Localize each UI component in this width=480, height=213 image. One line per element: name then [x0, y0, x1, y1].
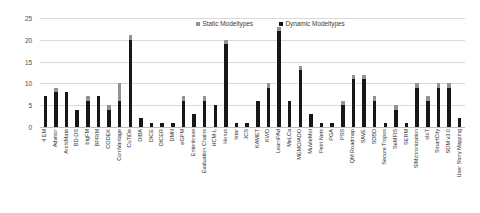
bar-segment-dynamic [107, 110, 111, 127]
x-axis-label-slot: SDBD [369, 129, 380, 211]
bar-stack [352, 75, 356, 127]
x-axis-label-slot: sIoT [423, 129, 434, 211]
x-axis-label-slot: Evaluation Chains [199, 129, 210, 211]
bar-slot [157, 18, 168, 127]
bar-segment-dynamic [139, 118, 143, 127]
bar-stack [288, 101, 292, 127]
x-axis-label: Evaluation Chains [202, 129, 208, 173]
x-axis-label-slot: DICER [157, 129, 168, 211]
x-axis-label-slot: CODEK [104, 129, 115, 211]
bar-stack [203, 96, 207, 127]
bar-segment-dynamic [75, 110, 79, 127]
bar-stack [182, 96, 186, 127]
bar-segment-dynamic [182, 101, 186, 127]
bar-segment-dynamic [288, 101, 292, 127]
bar-segment-dynamic [97, 96, 101, 127]
x-axis-label-slot: ComVantage [114, 129, 125, 211]
x-axis-label: SmartCity [436, 129, 442, 153]
bar-slot [369, 18, 380, 127]
x-axis-label: Entenknow [191, 129, 197, 156]
bar-stack [437, 83, 441, 127]
bar-slot [189, 18, 200, 127]
bar-segment-dynamic [352, 79, 356, 127]
bar-slot [359, 18, 370, 127]
x-axis-label-slot: Entenknow [189, 129, 200, 211]
bar-segment-dynamic [160, 123, 164, 127]
x-axis-label: SAVE [361, 129, 367, 143]
x-axis-label: BPRIM [96, 129, 102, 146]
bar-slot [199, 18, 210, 127]
bar-stack [245, 123, 249, 127]
x-axis-label: MuVieMot [308, 129, 314, 154]
y-axis-tick: 20 [25, 36, 32, 43]
y-axis: 0510152025 [0, 18, 36, 127]
x-axis-label: CuTiDe [128, 129, 134, 147]
x-axis-label: JCS [244, 129, 250, 139]
bar-stack [129, 35, 133, 127]
bar-slot [316, 18, 327, 127]
bar-slot [83, 18, 94, 127]
bar-slot [114, 18, 125, 127]
x-axis-label-slot: Advisor [51, 129, 62, 211]
bar-slot [242, 18, 253, 127]
x-axis-label-slot: LearnPAd [274, 129, 285, 211]
bar-slot [433, 18, 444, 127]
x-axis-label-slot: SeMFIS [391, 129, 402, 211]
x-axis-label-slot: BPRIM [93, 129, 104, 211]
bar-slot [454, 18, 465, 127]
x-axis-label: Horus [223, 129, 229, 144]
bar-slot [327, 18, 338, 127]
bar-slot [401, 18, 412, 127]
bar-segment-dynamic [235, 123, 239, 127]
x-axis-label-slot: SERM [401, 129, 412, 211]
bar-segment-dynamic [65, 92, 69, 127]
bar-segment-static [118, 83, 122, 100]
x-axis-label: Advisor [53, 129, 59, 147]
x-axis-label: ArchiMate [64, 129, 70, 154]
bar-slot [306, 18, 317, 127]
x-axis-label-slot: MEMO/ADO [295, 129, 306, 211]
bar-slot [263, 18, 274, 127]
bar-segment-dynamic [415, 88, 419, 127]
x-axis-label: PSS [340, 129, 346, 140]
bar-stack [267, 83, 271, 127]
x-axis-label: DICER [159, 129, 165, 146]
bar-stack [150, 123, 154, 127]
x-axis-label-slot: DIBA [136, 129, 147, 211]
x-axis-label: 4 EM [43, 129, 49, 142]
bar-slot [104, 18, 115, 127]
x-axis-label: sIoT [425, 129, 431, 140]
bar-segment-dynamic [394, 110, 398, 127]
bar-segment-dynamic [224, 44, 228, 127]
x-axis-label: QM Roadmap [351, 129, 357, 163]
x-axis-label-slot: Secure Tropos [380, 129, 391, 211]
x-axis-label-slot: User Story Mapping [454, 129, 465, 211]
bar-slot [72, 18, 83, 127]
bar-slot [231, 18, 242, 127]
bar-stack [309, 114, 313, 127]
x-axis-label: Secure Tropos [383, 129, 389, 165]
bar-segment-dynamic [192, 114, 196, 127]
bar-slot [284, 18, 295, 127]
x-axis-label: PGA [329, 129, 335, 141]
legend-item[interactable]: Dynamic Modeltypes [279, 20, 345, 27]
bar-segment-dynamic [309, 114, 313, 127]
bar-segment-dynamic [277, 31, 281, 127]
x-axis-label-slot: KWD [263, 129, 274, 211]
legend-item[interactable]: Static Modeltypes [196, 20, 253, 27]
gridline [40, 127, 465, 128]
bar-slot [51, 18, 62, 127]
bar-stack [160, 123, 164, 127]
bar-stack [75, 110, 79, 127]
x-axis-label-slot: MeLCa [284, 129, 295, 211]
x-axis-label: SOM v3.0 [446, 129, 452, 153]
x-axis-label-slot: SmartCity [433, 129, 444, 211]
bar-segment-dynamic [150, 123, 154, 127]
bar-segment-dynamic [373, 101, 377, 127]
bar-segment-dynamic [44, 96, 48, 127]
x-axis-label: SERM [404, 129, 410, 145]
bar-segment-dynamic [54, 92, 58, 127]
legend-swatch-static-icon [196, 22, 200, 26]
x-axis-label: MEMO/ADO [298, 129, 304, 160]
x-axis-label-slot: Istar [231, 129, 242, 211]
